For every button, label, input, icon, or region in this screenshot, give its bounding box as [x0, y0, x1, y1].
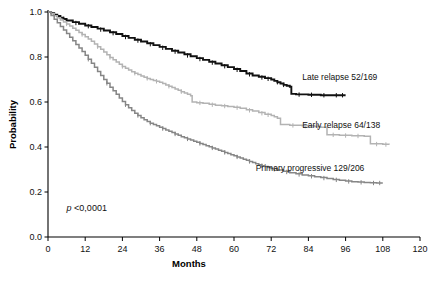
x-tick-label: 120 — [412, 244, 427, 254]
y-axis-title: Probability — [7, 99, 18, 149]
x-tick-label: 12 — [80, 244, 90, 254]
x-tick-label: 72 — [266, 244, 276, 254]
curve-late-relapse — [48, 12, 346, 95]
series-label-early-relapse: Early relapse 64/138 — [302, 120, 380, 130]
curve-series — [48, 12, 389, 185]
y-tick-label: 0.6 — [29, 97, 42, 107]
series-labels: Late relapse 52/169Early relapse 64/138P… — [256, 72, 381, 173]
y-tick-label: 0.4 — [29, 142, 42, 152]
axes: 0.00.20.40.60.81.00122436486072849610812… — [7, 7, 428, 269]
x-tick-label: 108 — [375, 244, 390, 254]
series-label-late-relapse: Late relapse 52/169 — [302, 72, 377, 82]
x-tick-label: 24 — [117, 244, 127, 254]
x-tick-label: 48 — [192, 244, 202, 254]
y-tick-label: 0.0 — [29, 232, 42, 242]
x-tick-label: 0 — [45, 244, 50, 254]
curve-primary-progressive — [48, 12, 383, 183]
y-tick-label: 0.2 — [29, 187, 42, 197]
series-label-primary-progressive: Primary progressive 129/206 — [256, 163, 365, 173]
x-axis-title: Months — [172, 258, 206, 269]
annotations: p <0,0001 — [66, 203, 107, 213]
x-tick-label: 60 — [229, 244, 239, 254]
y-tick-label: 1.0 — [29, 7, 42, 17]
x-tick-label: 36 — [155, 244, 165, 254]
chart-canvas: 0.00.20.40.60.81.00122436486072849610812… — [0, 0, 441, 284]
y-tick-label: 0.8 — [29, 52, 42, 62]
survival-curve-figure: 0.00.20.40.60.81.00122436486072849610812… — [0, 0, 441, 284]
x-tick-label: 96 — [341, 244, 351, 254]
p-value-annotation: p <0,0001 — [66, 203, 107, 213]
x-tick-label: 84 — [303, 244, 313, 254]
